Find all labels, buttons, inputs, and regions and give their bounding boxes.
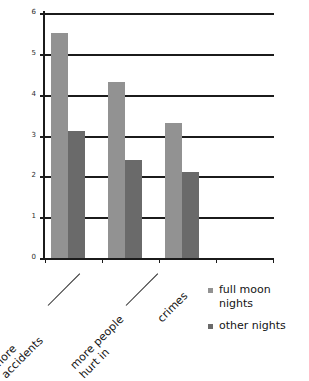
- y-tick-label: 2: [22, 172, 36, 179]
- gridline: [45, 95, 274, 97]
- x-tick-mark: [102, 258, 103, 263]
- y-tick-mark: [40, 54, 45, 56]
- x-tick-mark: [216, 258, 217, 263]
- x-tick-mark: [45, 258, 46, 263]
- y-tick-label: 3: [22, 132, 36, 139]
- legend-label: other nights: [219, 319, 286, 333]
- legend-item[interactable]: other nights: [208, 319, 308, 333]
- y-tick-mark: [40, 95, 45, 97]
- legend-item[interactable]: full moonnights: [208, 283, 308, 311]
- legend-swatch-icon: [208, 288, 213, 293]
- y-tick-mark: [40, 217, 45, 219]
- bar[interactable]: [125, 160, 142, 258]
- gridline: [45, 54, 274, 56]
- plot-area: [45, 13, 274, 258]
- y-tick-label: 1: [22, 213, 36, 220]
- legend-label: full moonnights: [219, 283, 271, 311]
- legend: full moonnights other nights: [208, 283, 308, 341]
- bar[interactable]: [51, 33, 68, 258]
- bar[interactable]: [165, 123, 182, 258]
- bar[interactable]: [182, 172, 199, 258]
- legend-swatch-icon: [208, 324, 213, 329]
- x-tick-mark: [159, 258, 160, 263]
- label-leader-line: [48, 273, 81, 306]
- gridline: [45, 13, 274, 15]
- y-tick-mark: [40, 136, 45, 138]
- y-tick-mark: [40, 13, 45, 15]
- y-tick-label: 0: [22, 254, 36, 261]
- x-category-label: more peoplehurt in: [68, 313, 136, 381]
- x-category-label: moreaccidents: [0, 325, 46, 381]
- y-tick-label: 6: [22, 9, 36, 16]
- y-tick-label: 5: [22, 50, 36, 57]
- bar[interactable]: [108, 82, 125, 258]
- label-leader-line: [126, 273, 159, 306]
- y-tick-label: 4: [22, 91, 36, 98]
- y-tick-mark: [40, 176, 45, 178]
- bar[interactable]: [68, 131, 85, 258]
- x-tick-mark: [273, 258, 274, 263]
- x-category-label: crimes: [155, 289, 191, 325]
